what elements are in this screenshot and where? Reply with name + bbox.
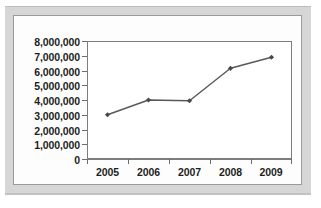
x-tick-label: 2005 bbox=[86, 166, 130, 178]
x-axis-line bbox=[87, 159, 292, 160]
x-tick-mark bbox=[87, 159, 88, 164]
chart-panel: 8,000,000 7,000,000 6,000,000 5,000,000 … bbox=[13, 15, 302, 185]
y-tick-label: 4,000,000 bbox=[14, 95, 80, 107]
y-tick-label: 5,000,000 bbox=[14, 80, 80, 92]
x-tick-mark bbox=[128, 159, 129, 164]
series-polyline bbox=[108, 57, 272, 115]
x-tick-mark bbox=[210, 159, 211, 164]
x-tick-label: 2008 bbox=[209, 166, 253, 178]
screenshot-root: 8,000,000 7,000,000 6,000,000 5,000,000 … bbox=[0, 0, 321, 208]
x-tick-label: 2009 bbox=[249, 166, 293, 178]
x-tick-label: 2007 bbox=[168, 166, 212, 178]
x-tick-mark bbox=[169, 159, 170, 164]
y-tick-label: 1,000,000 bbox=[14, 139, 80, 151]
line-chart: 8,000,000 7,000,000 6,000,000 5,000,000 … bbox=[14, 16, 303, 186]
y-tick-label: 0 bbox=[14, 154, 80, 166]
y-tick-label: 7,000,000 bbox=[14, 51, 80, 63]
y-tick-label: 8,000,000 bbox=[14, 36, 80, 48]
data-series-line bbox=[87, 41, 292, 159]
x-tick-label: 2006 bbox=[127, 166, 171, 178]
data-point-marker bbox=[105, 112, 110, 117]
y-tick-label: 3,000,000 bbox=[14, 110, 80, 122]
data-point-marker bbox=[269, 55, 274, 60]
x-tick-mark bbox=[291, 159, 292, 164]
y-tick-label: 6,000,000 bbox=[14, 66, 80, 78]
x-tick-mark bbox=[251, 159, 252, 164]
y-tick-label: 2,000,000 bbox=[14, 125, 80, 137]
data-point-marker bbox=[146, 97, 151, 102]
